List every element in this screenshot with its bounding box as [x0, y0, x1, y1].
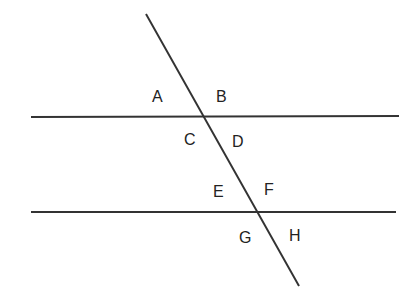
angle-label-e: E	[213, 183, 224, 200]
transversal-line	[146, 14, 299, 286]
angle-label-b: B	[216, 88, 227, 105]
diagram-canvas: A B C D E F G H	[0, 0, 415, 306]
angle-label-f: F	[264, 181, 274, 198]
angle-label-c: C	[184, 131, 196, 148]
angle-label-g: G	[239, 229, 251, 246]
angle-label-a: A	[152, 88, 163, 105]
parallel-line-top	[31, 116, 399, 117]
angle-label-d: D	[232, 133, 244, 150]
angle-label-h: H	[289, 227, 301, 244]
